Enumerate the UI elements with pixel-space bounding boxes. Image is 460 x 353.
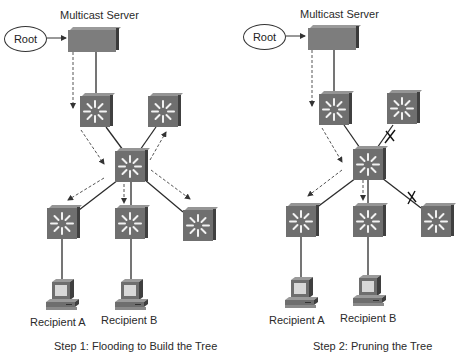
diagram-step1: Multicast Server Root Recipient A Recipi… (0, 0, 230, 353)
step2-links (230, 0, 460, 353)
switch-icon (286, 206, 316, 237)
core-switch-icon (353, 149, 383, 180)
switch-icon (353, 206, 383, 237)
diagram-step2: Multicast Server Root Recipient A Recipi… (230, 0, 460, 353)
root-node: Root (4, 26, 47, 52)
switch-icon (387, 93, 417, 124)
pc-icon (283, 276, 319, 310)
root-label: Root (253, 31, 276, 43)
switch-icon (421, 206, 451, 237)
pc-icon (44, 278, 80, 312)
switch-icon (115, 208, 145, 239)
switch-icon (319, 94, 349, 125)
multicast-server-icon (308, 28, 356, 50)
recipient-b-label: Recipient B (101, 314, 157, 326)
pc-icon (351, 274, 387, 308)
server-label: Multicast Server (60, 9, 139, 21)
switch-icon (80, 96, 110, 127)
prune-x-icon (408, 191, 416, 204)
multicast-server-icon (68, 30, 116, 52)
step1-caption: Step 1: Flooding to Build the Tree (54, 340, 217, 352)
recipient-a-label: Recipient A (269, 314, 325, 326)
step2-caption: Step 2: Pruning the Tree (313, 340, 432, 352)
switch-icon (47, 208, 77, 239)
server-label: Multicast Server (300, 8, 379, 20)
core-switch-icon (115, 151, 145, 182)
switch-icon (148, 96, 178, 127)
pc-icon (113, 278, 149, 312)
recipient-a-label: Recipient A (30, 316, 86, 328)
switch-icon (183, 210, 213, 241)
recipient-b-label: Recipient B (340, 312, 396, 324)
root-node: Root (243, 24, 286, 50)
prune-x-icon (385, 130, 395, 143)
root-label: Root (14, 33, 37, 45)
